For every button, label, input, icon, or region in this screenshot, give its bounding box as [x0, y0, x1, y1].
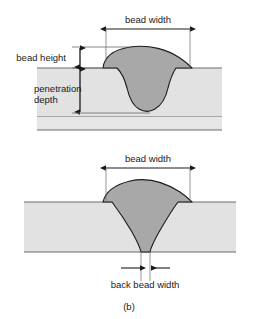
bottom-bead-width-label: bead width	[125, 153, 171, 164]
penetration-depth-label-line2: depth	[34, 94, 58, 105]
weld-diagram-canvas: bead width bead height penetration depth	[0, 0, 259, 319]
back-bead-width-label: back bead width	[111, 279, 180, 290]
weld-bead-geometry-figure: bead width bead height penetration depth	[0, 0, 259, 319]
top-plate-lower-band	[37, 117, 222, 130]
penetration-depth-label-line1: penetration	[34, 83, 82, 94]
bead-height-label: bead height	[16, 52, 66, 63]
top-bead-width-label: bead width	[125, 14, 171, 25]
figure-caption: (b)	[123, 301, 135, 312]
bottom-figure-group: bead width back bead width	[24, 153, 236, 290]
top-figure-group: bead width bead height penetration depth	[16, 14, 222, 130]
